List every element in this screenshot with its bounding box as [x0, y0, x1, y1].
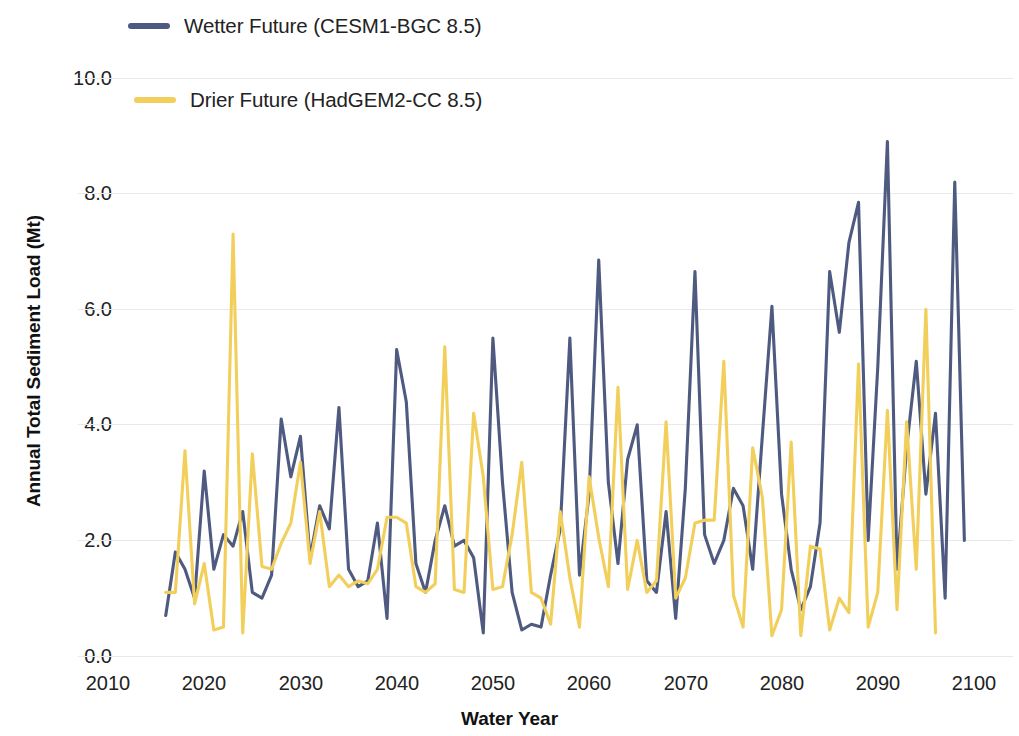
plot-area: [0, 0, 1019, 736]
series-group: [166, 142, 965, 636]
series-line-wetter: [166, 142, 965, 633]
sediment-load-chart: Wetter Future (CESM1-BGC 8.5) Drier Futu…: [0, 0, 1019, 736]
gridlines: [78, 78, 1013, 656]
